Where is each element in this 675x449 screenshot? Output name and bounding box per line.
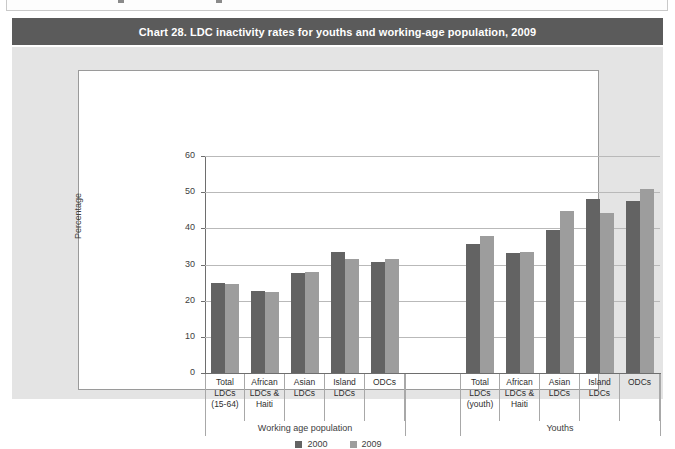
legend-label: 2000 <box>307 439 327 449</box>
x-category-line: Haiti <box>500 399 539 410</box>
bar-2000-9 <box>626 201 640 373</box>
partial-table-box <box>6 0 668 11</box>
x-category-line: Total <box>206 377 244 388</box>
legend-swatch-icon <box>350 441 357 448</box>
x-category-label: AsianLDCs <box>540 374 580 421</box>
x-category-label: ODCs <box>620 374 660 421</box>
x-category-line: Total <box>461 377 499 388</box>
x-category-line: ODCs <box>620 377 659 388</box>
x-group-label: Working age population <box>205 423 405 433</box>
x-category-label: TotalLDCs(youth) <box>460 374 500 421</box>
bar-2009-5 <box>480 236 494 373</box>
x-category-label: AfricanLDCs &Haiti <box>500 374 540 421</box>
bar-2000-8 <box>586 199 600 373</box>
x-category-line: LDCs <box>206 388 244 399</box>
bar-2000-5 <box>466 244 480 373</box>
x-category-line: LDCs & <box>500 388 539 399</box>
x-category-line: LDCs <box>285 388 324 399</box>
x-category-line: LDCs <box>461 388 499 399</box>
x-category-label: ODCs <box>365 374 405 421</box>
bar-2009-9 <box>640 189 654 373</box>
x-category-line: (youth) <box>461 399 499 410</box>
bar-2000-0 <box>211 283 225 373</box>
x-category-line: LDCs & <box>245 388 284 399</box>
x-category-line: Island <box>580 377 619 388</box>
x-category-line: (15-64) <box>206 399 244 410</box>
x-category-line: Asian <box>540 377 579 388</box>
y-tick-label: 60 <box>169 150 195 160</box>
legend-item-2009[interactable]: 2009 <box>350 439 382 449</box>
x-group-label: Youths <box>460 423 660 433</box>
bar-2000-6 <box>506 253 520 373</box>
x-category-line: African <box>245 377 284 388</box>
bar-2009-6 <box>520 252 534 373</box>
x-category-line: ODCs <box>365 377 404 388</box>
x-category-line: LDCs <box>325 388 364 399</box>
legend-swatch-icon <box>295 441 302 448</box>
x-group-divider <box>660 374 661 436</box>
document-top-partial-row <box>0 0 675 13</box>
partial-tick-mark <box>118 0 124 3</box>
x-category-label: AsianLDCs <box>285 374 325 421</box>
chart-figure: Percentage 0102030405060 TotalLDCs(15-64… <box>78 70 599 390</box>
y-tick-label: 40 <box>169 222 195 232</box>
bar-2000-1 <box>251 291 265 373</box>
bar-2009-1 <box>265 292 279 373</box>
x-category-line: LDCs <box>540 388 579 399</box>
plot-area <box>205 156 660 373</box>
bar-2000-2 <box>291 273 305 373</box>
y-axis-title: Percentage <box>73 193 83 239</box>
x-group-divider <box>460 374 461 436</box>
bar-2009-2 <box>305 272 319 373</box>
bar-2000-3 <box>331 252 345 373</box>
x-category-line: LDCs <box>580 388 619 399</box>
bar-2009-7 <box>560 211 574 373</box>
bar-2009-4 <box>385 259 399 373</box>
chart-legend: 20002009 <box>79 439 598 449</box>
bar-2009-8 <box>600 213 614 373</box>
x-category-line: Island <box>325 377 364 388</box>
x-category-label: IslandLDCs <box>325 374 365 421</box>
y-tick-label: 10 <box>169 331 195 341</box>
y-tick-label: 20 <box>169 295 195 305</box>
y-tick-label: 50 <box>169 186 195 196</box>
y-tick-label: 0 <box>169 367 195 377</box>
x-group-divider <box>205 374 206 436</box>
chart-title-banner: Chart 28. LDC inactivity rates for youth… <box>12 18 663 45</box>
legend-label: 2009 <box>362 439 382 449</box>
x-category-label: TotalLDCs(15-64) <box>205 374 245 421</box>
bar-2000-4 <box>371 262 385 373</box>
chart-title: Chart 28. LDC inactivity rates for youth… <box>139 26 536 38</box>
y-tick-label: 30 <box>169 259 195 269</box>
x-category-label: IslandLDCs <box>580 374 620 421</box>
partial-tick-mark <box>216 0 222 3</box>
bar-2009-0 <box>225 284 239 373</box>
x-category-label: AfricanLDCs &Haiti <box>245 374 285 421</box>
bar-2009-3 <box>345 259 359 373</box>
x-category-line: African <box>500 377 539 388</box>
x-category-line: Asian <box>285 377 324 388</box>
bar-2000-7 <box>546 230 560 373</box>
x-category-line: Haiti <box>245 399 284 410</box>
x-group-divider <box>405 374 406 436</box>
legend-item-2000[interactable]: 2000 <box>295 439 327 449</box>
